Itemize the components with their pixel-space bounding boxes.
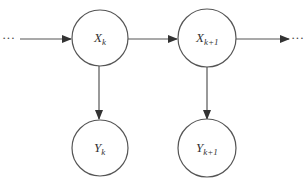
ellipsis-right: ··· [291,30,304,45]
hmm-diagram: ··· ··· Xk Xk+1 Yk Yk+1 [0,0,308,191]
node-x-k: Xk [72,10,128,66]
node-x-k-plus-1: Xk+1 [178,9,236,67]
ellipsis-left: ··· [2,30,15,45]
node-y-k: Yk [72,120,128,176]
node-y-k-plus-1: Yk+1 [178,119,236,177]
